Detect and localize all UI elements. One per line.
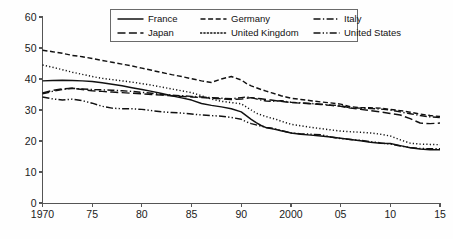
x-tick-label: 15 [434,208,446,220]
legend-row-2: Japan United Kingdom United States [117,26,353,40]
legend-line-dash-dotdot-icon [313,28,340,38]
x-tick-label: 1970 [31,208,55,220]
legend-line-dashed-long-icon [117,28,144,38]
y-tick-label: 20 [25,135,37,147]
y-tick-label: 10 [25,166,37,178]
x-axis-group: 1970758085902000051015 [31,203,446,220]
x-tick-label: 85 [186,208,198,220]
legend-entry-italy[interactable]: Italy [313,12,361,26]
legend-label-united-kingdom: United Kingdom [231,28,299,38]
series-line-united-kingdom [43,65,441,145]
legend-line-dotted-icon [200,28,227,38]
y-tick-label: 40 [25,73,37,85]
x-tick-label: 80 [136,208,148,220]
legend-label-germany: Germany [231,14,270,24]
series-line-italy [43,88,441,117]
chart-legend: France Germany Italy Japan United Kingdo… [110,9,358,42]
x-tick-label: 90 [235,208,247,220]
legend-label-france: France [148,14,178,24]
y-tick-label: 30 [25,104,37,116]
legend-entry-france[interactable]: France [117,12,200,26]
legend-line-dashed-short-icon [200,14,227,24]
legend-entry-united-kingdom[interactable]: United Kingdom [200,26,313,40]
y-axis-group: 0102030405060 [25,11,43,209]
series-line-france [43,80,441,149]
x-tick-label: 2000 [279,208,303,220]
line-chart: 0102030405060 1970758085902000051015 Fra… [0,0,453,239]
legend-label-japan: Japan [148,28,174,38]
x-tick-label: 10 [384,208,396,220]
x-tick-label: 05 [335,208,347,220]
legend-entry-germany[interactable]: Germany [200,12,313,26]
legend-label-italy: Italy [344,14,361,24]
legend-entry-japan[interactable]: Japan [117,26,200,40]
legend-line-dashdot-icon [313,14,340,24]
legend-row-1: France Germany Italy [117,12,353,26]
y-tick-label: 0 [31,197,37,209]
series-line-united-states [43,97,441,149]
series-group [43,50,441,150]
y-tick-label: 50 [25,42,37,54]
x-tick-label: 75 [86,208,98,220]
legend-line-solid-icon [117,14,144,24]
series-line-japan [43,88,441,123]
y-tick-label: 60 [25,11,37,23]
legend-entry-united-states[interactable]: United States [313,26,401,40]
legend-label-united-states: United States [344,28,401,38]
